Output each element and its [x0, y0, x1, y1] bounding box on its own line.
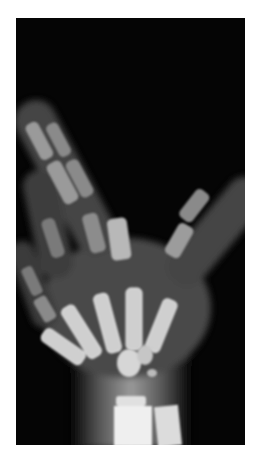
hand-xray-illustration	[16, 18, 245, 445]
xray-image: X-ray of a pediatric hand showing phalan…	[16, 18, 245, 445]
soft-tissue	[16, 93, 245, 445]
